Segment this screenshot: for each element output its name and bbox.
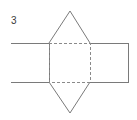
bottom-triangle-outline <box>49 82 90 113</box>
figure-container: 3 <box>0 0 137 120</box>
geometric-net-diagram <box>0 0 137 120</box>
left-rectangle-outline <box>11 43 49 82</box>
right-rectangle-outline <box>90 43 128 82</box>
center-square-dashed-outline <box>49 43 90 82</box>
top-triangle-outline <box>49 11 90 43</box>
